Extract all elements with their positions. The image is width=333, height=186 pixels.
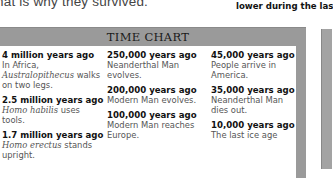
time-chart-title: TIME CHART bbox=[0, 28, 296, 46]
timeline-entry: 200,000 years ago Modern Man evolves. bbox=[107, 85, 207, 105]
entry-description: Neanderthal Man evolves. bbox=[107, 60, 207, 80]
timeline-entry: 10,000 years ago The last ice age bbox=[211, 120, 297, 140]
entry-date: 4 million years ago bbox=[2, 50, 102, 60]
entry-date: 1.7 million years ago bbox=[2, 130, 102, 140]
entry-date: 10,000 years ago bbox=[211, 120, 297, 130]
entry-date: 45,000 years ago bbox=[211, 50, 297, 60]
body-text-fragment: hat is why they survived. bbox=[0, 0, 148, 9]
entry-date: 100,000 years ago bbox=[107, 110, 207, 120]
entry-date: 2.5 million years ago bbox=[2, 95, 102, 105]
entry-description: Homo habilis uses tools. bbox=[2, 105, 102, 125]
time-chart-column-1: 4 million years ago In Africa, Australop… bbox=[2, 50, 102, 165]
timeline-entry: 4 million years ago In Africa, Australop… bbox=[2, 50, 102, 90]
entry-date: 35,000 years ago bbox=[211, 85, 297, 95]
timeline-entry: 45,000 years ago People arrive in Americ… bbox=[211, 50, 297, 80]
entry-date: 200,000 years ago bbox=[107, 85, 207, 95]
entry-description: Modern Man evolves. bbox=[107, 95, 207, 105]
time-chart-column-3: 45,000 years ago People arrive in Americ… bbox=[211, 50, 297, 145]
adjacent-panel-edge bbox=[321, 29, 332, 169]
time-chart-panel: TIME CHART 4 million years ago In Africa… bbox=[0, 27, 306, 178]
time-chart-column-2: 250,000 years ago Neanderthal Man evolve… bbox=[107, 50, 207, 145]
entry-description: Neanderthal Man dies out. bbox=[211, 95, 297, 115]
entry-description: Modern Man reaches Europe. bbox=[107, 120, 207, 140]
timeline-entry: 250,000 years ago Neanderthal Man evolve… bbox=[107, 50, 207, 80]
timeline-entry: 1.7 million years ago Homo erectus stand… bbox=[2, 130, 102, 160]
timeline-entry: 35,000 years ago Neanderthal Man dies ou… bbox=[211, 85, 297, 115]
entry-description: Homo erectus stands upright. bbox=[2, 140, 102, 160]
entry-description: The last ice age bbox=[211, 130, 297, 140]
entry-description: People arrive in America. bbox=[211, 60, 297, 80]
timeline-entry: 2.5 million years ago Homo habilis uses … bbox=[2, 95, 102, 125]
entry-date: 250,000 years ago bbox=[107, 50, 207, 60]
timeline-entry: 100,000 years ago Modern Man reaches Eur… bbox=[107, 110, 207, 140]
time-chart-body: 4 million years ago In Africa, Australop… bbox=[0, 46, 296, 186]
entry-description: In Africa, Australopithecus walks on two… bbox=[2, 60, 102, 90]
caption-text-fragment: lower during the las bbox=[236, 1, 333, 11]
